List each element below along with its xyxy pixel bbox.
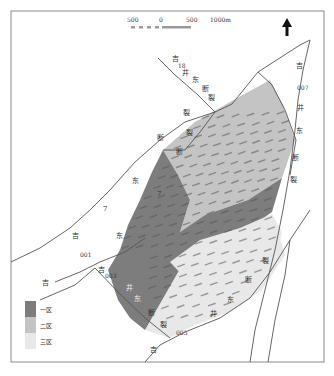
fault-label: 东 (192, 75, 199, 84)
fault-label: 裂 (262, 256, 269, 265)
fault-label: 吉 (150, 346, 157, 354)
svg-text:1000m: 1000m (210, 16, 231, 23)
fault-label: 裂 (183, 108, 190, 117)
legend-label-zone3: 三区 (40, 338, 52, 345)
fault-label: 井 (126, 283, 133, 292)
fault-label: 东 (134, 294, 141, 303)
fault-label: 断 (292, 153, 299, 162)
fault-label: 005 (176, 329, 188, 336)
fault-label: 断 (148, 308, 155, 317)
fault-label: 7 (103, 205, 107, 213)
fault-label: 东 (132, 176, 139, 185)
fault-label: 吉 (98, 266, 105, 274)
fault-label: 吉 (72, 232, 79, 240)
legend-swatch-zone3 (25, 333, 36, 349)
fault-label: 吉 (42, 279, 49, 287)
svg-text:500: 500 (127, 16, 139, 23)
legend-label-zone1: 一区 (40, 306, 52, 313)
fault-label: 东 (227, 295, 234, 304)
fault-label: 断 (202, 84, 209, 93)
fault-label: 裂 (208, 93, 215, 102)
fault-label: 断 (245, 275, 252, 284)
fault-label: 裂 (160, 320, 167, 329)
svg-text:0: 0 (159, 16, 163, 23)
fault-label: 裂 (290, 175, 297, 184)
geologic-zone-map: 吉 18 井 东 断 裂 裂 裂 断 断 东 7 7 吉 东 吉 007 井 东… (0, 0, 334, 376)
fault-label: 18 (178, 62, 186, 69)
legend-swatch-zone2 (25, 317, 36, 333)
legend-swatch-zone1 (25, 301, 36, 317)
fault-label: 井 (182, 68, 189, 77)
fault-label: 东 (116, 231, 123, 240)
fault-label: 东 (296, 126, 303, 135)
fault-label: 007 (297, 84, 309, 91)
fault-label: 吉 (296, 62, 303, 70)
legend-label-zone2: 二区 (40, 322, 52, 329)
fault-label: 井 (210, 309, 217, 318)
svg-text:500: 500 (186, 16, 198, 23)
fault-label: 7 (157, 190, 161, 198)
fault-label: 001 (80, 251, 91, 258)
fault-label: 003 (105, 272, 117, 279)
fault-label: 裂 (186, 128, 193, 137)
fault-label: 断 (176, 147, 183, 156)
fault-label: 井 (297, 103, 304, 112)
fault-label: 断 (157, 133, 164, 142)
